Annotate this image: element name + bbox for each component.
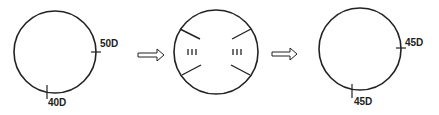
suture-marks-right [233,49,241,55]
incision-line [232,29,251,39]
incision-line [231,65,250,75]
suture-marks-left [188,49,196,55]
incisions-cornea [174,10,258,94]
vertical-power-label: 40D [48,97,66,108]
arrow-right-icon [138,49,164,61]
astigmatism-diagram: 50D 40D 45D 45D [0,0,439,115]
horizontal-power-label: 45D [405,37,423,48]
incision-line [180,29,200,39]
incision-line [182,65,201,75]
arrow-right-icon [272,48,297,60]
vertical-power-label: 45D [354,96,372,107]
cornea-circle [319,8,401,90]
original-cornea: 50D 40D [14,11,118,108]
cornea-circle [14,11,96,93]
cornea-circle [174,10,258,94]
result-cornea: 45D 45D [319,8,423,107]
horizontal-power-label: 50D [100,38,118,49]
